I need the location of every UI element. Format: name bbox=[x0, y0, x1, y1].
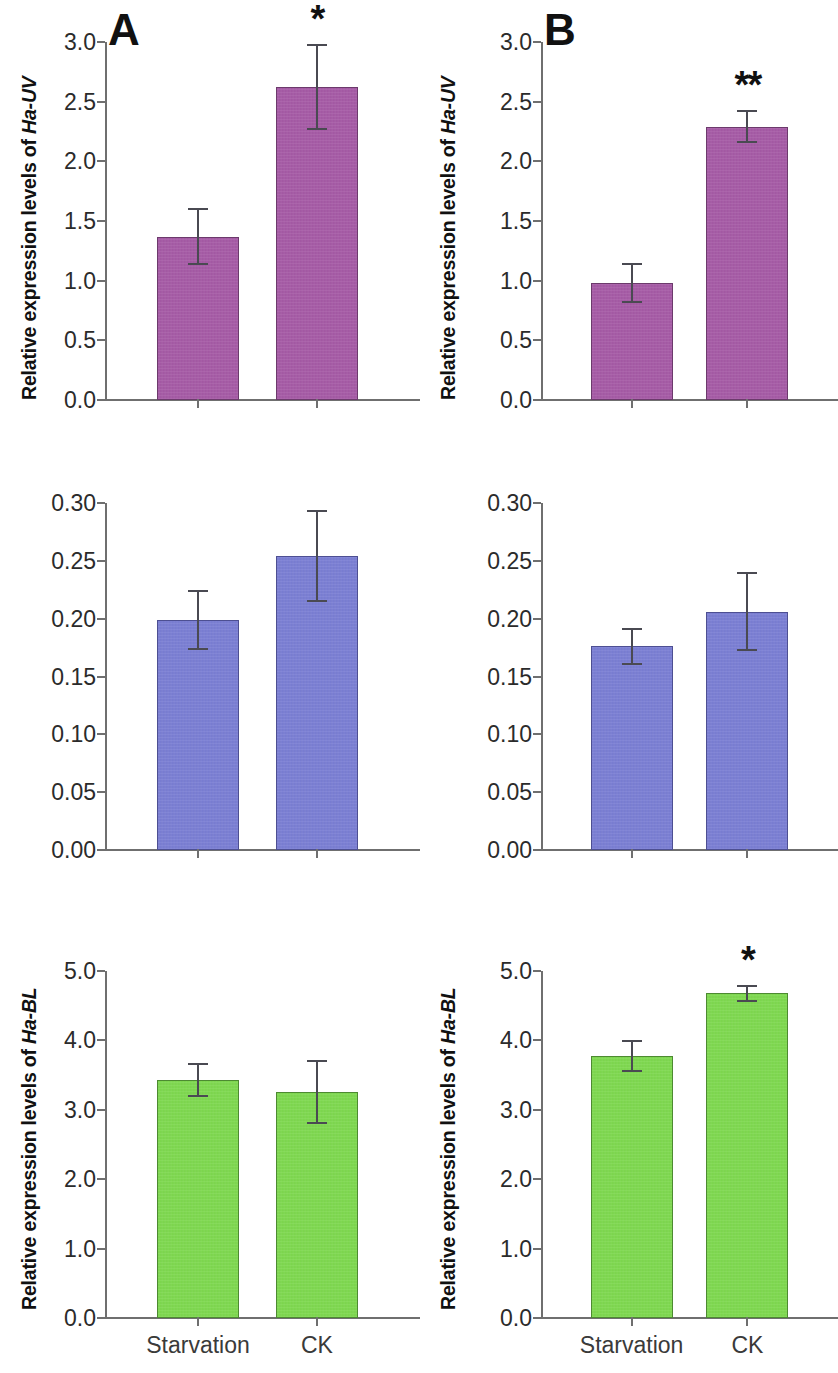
error-bar-stem bbox=[631, 1040, 633, 1072]
chart-a-ha-lw: Relative expression levels of Ha-LW 0.01… bbox=[0, 910, 419, 1373]
x-axis-label-starvation: Starvation bbox=[580, 1332, 684, 1359]
error-bar-stem bbox=[316, 44, 318, 130]
error-bar-cap-upper bbox=[622, 628, 642, 630]
y-axis-tick bbox=[533, 280, 541, 282]
error-bar-stem bbox=[197, 590, 199, 650]
y-axis-tick bbox=[97, 1248, 105, 1250]
bar-starvation bbox=[157, 1080, 239, 1318]
x-axis-tick bbox=[746, 849, 748, 858]
x-axis-label-ck: CK bbox=[301, 1332, 333, 1359]
y-axis-tick-label: 0.15 bbox=[487, 663, 532, 690]
x-axis-tick bbox=[631, 849, 633, 858]
x-axis-line bbox=[105, 399, 420, 401]
error-bar-stem bbox=[631, 263, 633, 304]
y-axis-tick-label: 2.0 bbox=[64, 1166, 96, 1193]
y-axis-tick-label: 2.5 bbox=[500, 88, 532, 115]
x-axis-tick bbox=[316, 399, 318, 408]
x-axis-tick bbox=[631, 1317, 633, 1326]
y-axis-tick bbox=[533, 339, 541, 341]
y-axis-tick-label: 1.5 bbox=[64, 208, 96, 235]
error-bar bbox=[305, 1060, 329, 1124]
y-axis-tick bbox=[533, 618, 541, 620]
bar-ck bbox=[706, 993, 788, 1318]
x-axis-line bbox=[541, 399, 838, 401]
y-axis-tick bbox=[533, 733, 541, 735]
y-axis-tick bbox=[97, 970, 105, 972]
bar-texture bbox=[158, 621, 238, 849]
error-bar bbox=[305, 510, 329, 603]
error-bar-cap-lower bbox=[307, 128, 327, 130]
y-axis-tick-label: 1.0 bbox=[500, 267, 532, 294]
y-axis-tick bbox=[533, 1109, 541, 1111]
error-bar-cap-upper bbox=[737, 572, 757, 574]
y-axis-tick bbox=[97, 676, 105, 678]
error-bar-cap-lower bbox=[188, 263, 208, 265]
error-bar bbox=[735, 110, 759, 143]
y-axis-tick bbox=[533, 1039, 541, 1041]
chart-b-ha-bl: Relative expression levels of Ha-BL 0.00… bbox=[419, 450, 838, 910]
bar-texture bbox=[707, 994, 787, 1317]
bar-starvation bbox=[591, 1056, 673, 1318]
y-axis-tick-label: 0.00 bbox=[51, 837, 96, 864]
y-axis-tick-label: 2.0 bbox=[64, 148, 96, 175]
y-axis-title-ha-uv: Relative expression levels of Ha-UV bbox=[18, 76, 41, 400]
significance-marker: ** bbox=[735, 66, 761, 104]
y-axis-tick-label: 2.5 bbox=[64, 88, 96, 115]
y-axis-tick-label: 0.0 bbox=[64, 387, 96, 414]
chart-a-ha-bl: Relative expression levels of Ha-BL 0.00… bbox=[0, 450, 419, 910]
y-axis-tick-label: 5.0 bbox=[64, 958, 96, 985]
y-axis-tick-label: 0.05 bbox=[51, 779, 96, 806]
y-axis-tick bbox=[97, 849, 105, 851]
bar-starvation bbox=[157, 620, 239, 850]
error-bar-cap-upper bbox=[737, 110, 757, 112]
bar-texture bbox=[707, 128, 787, 399]
y-axis-tick bbox=[533, 1248, 541, 1250]
x-axis-line bbox=[541, 849, 838, 851]
x-axis-label-ck: CK bbox=[731, 1332, 763, 1359]
y-axis-tick bbox=[97, 1039, 105, 1041]
error-bar-cap-lower bbox=[737, 649, 757, 651]
y-axis-tick bbox=[97, 1109, 105, 1111]
y-axis-tick-label: 0.20 bbox=[487, 605, 532, 632]
error-bar-cap-upper bbox=[188, 590, 208, 592]
plot-area-b-ha-lw: 0.01.02.03.04.05.0Starvation*CK bbox=[541, 971, 838, 1318]
y-axis-tick bbox=[97, 733, 105, 735]
y-axis-tick bbox=[533, 399, 541, 401]
error-bar-cap-lower bbox=[737, 1000, 757, 1002]
y-axis-tick-label: 0.10 bbox=[487, 721, 532, 748]
bar-texture bbox=[277, 1093, 357, 1317]
y-axis-tick-label: 1.0 bbox=[64, 1235, 96, 1262]
y-axis-tick bbox=[533, 849, 541, 851]
y-axis-tick-label: 0.15 bbox=[51, 663, 96, 690]
y-axis-tick-label: 0.0 bbox=[500, 387, 532, 414]
plot-area-a-ha-uv: 0.00.51.01.52.02.53.0* bbox=[105, 42, 410, 400]
chart-a-ha-uv: A Relative expression levels of Ha-UV 0.… bbox=[0, 0, 419, 450]
y-axis-tick bbox=[533, 502, 541, 504]
y-axis-line bbox=[105, 971, 107, 1318]
error-bar bbox=[186, 590, 210, 650]
x-axis-tick bbox=[197, 1317, 199, 1326]
y-axis-title-prefix: Relative expression levels of bbox=[18, 134, 40, 400]
y-axis-line bbox=[105, 42, 107, 400]
x-axis-tick bbox=[631, 399, 633, 408]
y-axis-tick bbox=[97, 280, 105, 282]
y-axis-tick-label: 0.20 bbox=[51, 605, 96, 632]
error-bar-cap-upper bbox=[622, 263, 642, 265]
x-axis-tick bbox=[316, 849, 318, 858]
bar-ck bbox=[276, 1092, 358, 1318]
chart-b-ha-lw: Relative expression levels of Ha-LW 0.01… bbox=[419, 910, 838, 1373]
error-bar-stem bbox=[197, 208, 199, 265]
bar-texture bbox=[277, 88, 357, 399]
y-axis-tick-label: 4.0 bbox=[500, 1027, 532, 1054]
y-axis-tick-label: 0.10 bbox=[51, 721, 96, 748]
y-axis-line bbox=[541, 503, 543, 850]
y-axis-title-prefix: Relative expression levels of bbox=[437, 134, 459, 400]
y-axis-tick-label: 3.0 bbox=[500, 1096, 532, 1123]
y-axis-tick-label: 0.0 bbox=[500, 1305, 532, 1332]
bar-texture bbox=[592, 647, 672, 849]
y-axis-tick bbox=[533, 1317, 541, 1319]
y-axis-tick-label: 5.0 bbox=[500, 958, 532, 985]
error-bar-cap-lower bbox=[307, 1122, 327, 1124]
y-axis-tick-label: 0.5 bbox=[64, 327, 96, 354]
panel-b: B Relative expression levels of Ha-UV 0.… bbox=[419, 0, 838, 1373]
